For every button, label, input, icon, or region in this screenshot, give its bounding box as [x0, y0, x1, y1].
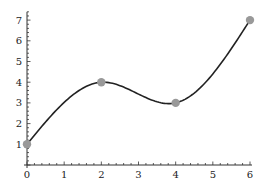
y-tick-label: 2 — [16, 118, 22, 129]
x-tick-label: 6 — [247, 169, 253, 180]
data-points — [23, 16, 254, 149]
interpolation-chart: 01234561234567 — [0, 0, 269, 186]
y-tick-label: 5 — [16, 56, 22, 67]
x-tick-label: 1 — [61, 169, 67, 180]
data-point-marker — [23, 140, 31, 148]
data-point-marker — [171, 99, 179, 107]
x-tick-label: 3 — [135, 169, 141, 180]
interpolating-curve — [27, 20, 250, 144]
x-tick-label: 5 — [210, 169, 216, 180]
y-tick-label: 1 — [16, 139, 22, 150]
x-tick-label: 2 — [98, 169, 104, 180]
y-tick-label: 6 — [16, 35, 22, 46]
tick-labels: 01234561234567 — [16, 15, 254, 180]
axes — [24, 12, 252, 168]
x-tick-label: 4 — [172, 169, 178, 180]
data-point-marker — [246, 16, 254, 24]
y-tick-label: 4 — [16, 77, 22, 88]
y-tick-label: 7 — [16, 15, 22, 26]
ticks — [27, 12, 250, 165]
y-tick-label: 3 — [16, 97, 22, 108]
x-tick-label: 0 — [24, 169, 30, 180]
data-point-marker — [97, 78, 105, 86]
